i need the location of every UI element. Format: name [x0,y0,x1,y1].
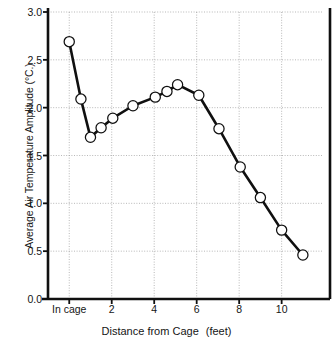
data-point [76,94,86,104]
data-point [162,86,172,96]
y-axis-label: Average Air Temperature Amplitude (°C.) [23,31,35,281]
y-tick-label: 0.0 [2,293,42,305]
data-point [108,113,118,123]
data-point [298,250,308,260]
data-point [194,90,204,100]
data-line [69,42,303,255]
y-axis-tick-labels: 0.00.51.01.52.02.53.0 [0,0,42,344]
data-point [85,132,95,142]
data-point [96,123,106,133]
data-point [277,225,287,235]
data-point [214,124,224,134]
y-tick-label: 1.5 [2,150,42,162]
y-tick-label: 2.0 [2,102,42,114]
data-markers [64,37,308,261]
x-tick-label: In cage [52,303,86,315]
data-point [64,37,74,47]
tick-marks [43,12,282,304]
x-tick-label: 6 [194,303,200,315]
data-point [235,162,245,172]
y-tick-label: 0.5 [2,245,42,257]
x-axis-label-main: Distance from Cage [102,325,199,337]
x-tick-label: 4 [151,303,157,315]
x-axis-label: Distance from Cage(feet) [0,325,333,337]
axes [42,8,330,299]
x-axis-label-unit: (feet) [206,325,232,337]
x-tick-label: 2 [109,303,115,315]
y-tick-label: 3.0 [2,6,42,18]
gridlines [48,12,322,299]
x-tick-label: 10 [276,303,288,315]
chart-figure: 0.00.51.01.52.02.53.0 Average Air Temper… [0,0,333,344]
data-point [150,92,160,102]
data-point [255,192,265,202]
x-tick-label: 8 [236,303,242,315]
y-tick-label: 2.5 [2,54,42,66]
data-point [128,101,138,111]
data-point [172,80,182,90]
plot-area [0,0,333,344]
y-tick-label: 1.0 [2,197,42,209]
